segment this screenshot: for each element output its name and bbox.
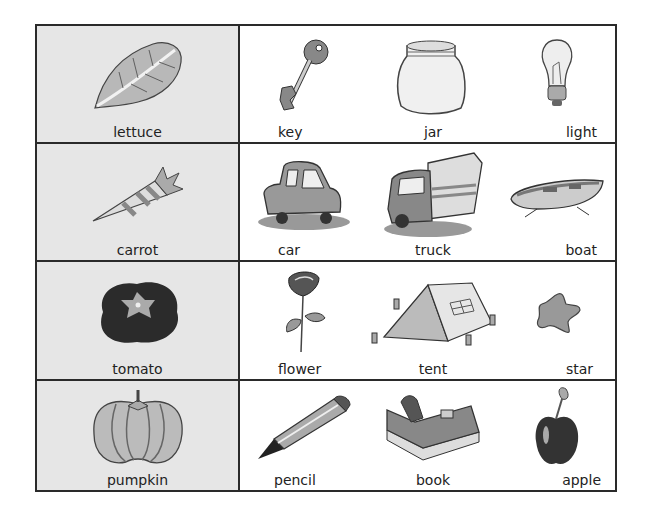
target-cell: lettuce (37, 26, 240, 142)
option-word: jar (368, 124, 498, 140)
target-word: pumpkin (37, 472, 238, 488)
option-light[interactable]: light (498, 26, 615, 142)
option-word: star (498, 361, 615, 377)
pumpkin-icon (37, 387, 238, 468)
truck-icon (368, 150, 498, 238)
option-key[interactable]: key (240, 26, 368, 142)
option-word: flower (240, 361, 368, 377)
option-tent[interactable]: tent (368, 262, 498, 379)
target-word: tomato (37, 361, 238, 377)
option-word: truck (368, 242, 498, 258)
carrot-icon (37, 150, 238, 238)
option-book[interactable]: book (368, 381, 498, 490)
worksheet-row-lettuce: lettuce key (37, 26, 615, 142)
target-cell: tomato (37, 262, 240, 379)
option-word: key (240, 124, 368, 140)
pencil-icon (240, 387, 368, 468)
worksheet-row-tomato: tomato flower (37, 260, 615, 379)
option-star[interactable]: star (498, 262, 615, 379)
option-word: light (498, 124, 615, 140)
option-pencil[interactable]: pencil (240, 381, 368, 490)
option-flower[interactable]: flower (240, 262, 368, 379)
tent-icon (368, 268, 498, 357)
target-cell: pumpkin (37, 381, 240, 490)
options-group: key jar (240, 26, 615, 142)
option-boat[interactable]: boat (498, 144, 615, 260)
option-word: boat (498, 242, 615, 258)
boat-icon (498, 150, 615, 238)
option-apple[interactable]: apple (498, 381, 615, 490)
apple-icon (498, 387, 615, 468)
target-word: lettuce (37, 124, 238, 140)
option-truck[interactable]: truck (368, 144, 498, 260)
option-jar[interactable]: jar (368, 26, 498, 142)
light-bulb-icon (498, 32, 615, 120)
jar-icon (368, 32, 498, 120)
target-word: carrot (37, 242, 238, 258)
options-group: car truck (240, 144, 615, 260)
tomato-icon (37, 268, 238, 357)
options-group: flower tent (240, 262, 615, 379)
book-icon (368, 387, 498, 468)
key-icon (240, 32, 368, 120)
worksheet-row-carrot: carrot car (37, 142, 615, 260)
option-car[interactable]: car (240, 144, 368, 260)
option-word: pencil (240, 472, 368, 488)
star-icon (498, 268, 615, 357)
worksheet-row-pumpkin: pumpkin pencil (37, 379, 615, 490)
picture-word-worksheet: lettuce key (35, 24, 617, 492)
car-icon (240, 150, 368, 238)
target-cell: carrot (37, 144, 240, 260)
flower-icon (240, 268, 368, 357)
lettuce-icon (37, 32, 238, 120)
options-group: pencil book (240, 381, 615, 490)
option-word: book (368, 472, 498, 488)
option-word: apple (498, 472, 615, 488)
option-word: tent (368, 361, 498, 377)
option-word: car (240, 242, 368, 258)
